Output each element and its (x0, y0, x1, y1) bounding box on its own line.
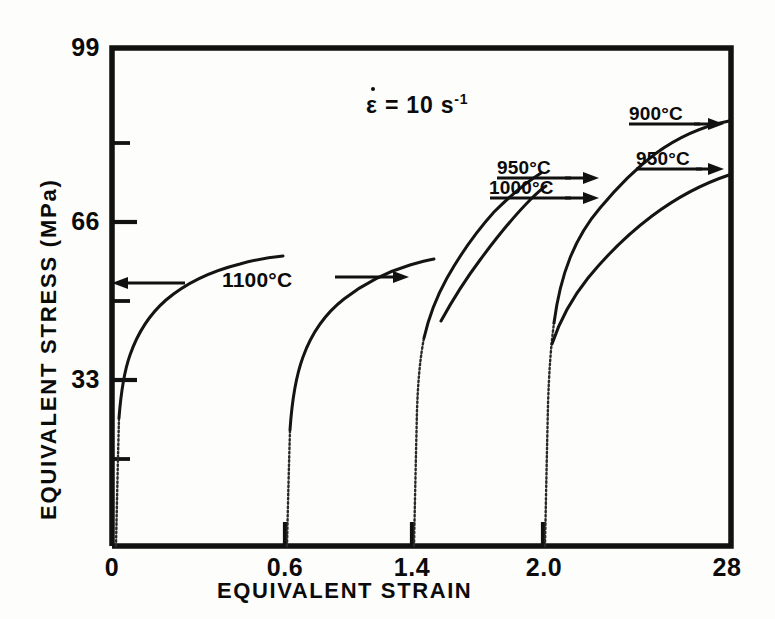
strain-rate-annotation: ε = 10 s-1 (366, 91, 468, 119)
y-tick-label-99: 99 (52, 33, 100, 62)
strain-rate-text: = 10 s (378, 92, 455, 118)
curve-elastic-900c (545, 323, 554, 546)
curve-label-1100c: 1100°C (222, 268, 292, 292)
strain-rate-exponent: -1 (454, 91, 468, 107)
x-tick-label-2-0: 2.0 (513, 553, 575, 582)
y-axis-title: EQUIVALENT STRESS (MPa) (36, 178, 62, 520)
y-axis-ticks (112, 143, 137, 459)
epsilon-dot-symbol: ε (366, 92, 378, 119)
curve-plastic-1000c-upper (441, 186, 546, 321)
curve-plastic-1000c (290, 259, 434, 430)
curve-elastic-1000c (287, 430, 290, 546)
curve-label-950c-mid: 950°C (497, 157, 551, 179)
curve-label-900c: 900°C (629, 103, 683, 125)
curve-label-950c-right: 950°C (636, 148, 690, 170)
x-tick-label-2-8: 28 (702, 553, 752, 582)
curve-label-1000c-mid: 1000°C (489, 177, 554, 199)
x-axis-title: EQUIVALENT STRAIN (217, 578, 472, 604)
curve-plastic-950c-lower (552, 175, 729, 344)
curve-elastic-950c-seg3 (414, 338, 424, 546)
curve-elastic-1100c (116, 418, 119, 546)
x-tick-label-0: 0 (94, 553, 130, 582)
span-arrow-left-1100c (112, 277, 185, 289)
figure-canvas: 99 66 33 0 0.6 1.4 2.0 28 EQUIVALENT STR… (0, 0, 775, 619)
